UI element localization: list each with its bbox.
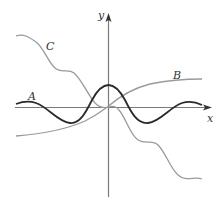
curve-a-label: A [27, 90, 36, 103]
function-graph-figure: y x A B C [0, 0, 219, 211]
x-axis-label: x [207, 112, 214, 125]
axes [15, 13, 212, 197]
curve-b-label: B [172, 69, 181, 82]
y-axis-label: y [97, 9, 105, 22]
curve-c-label: C [46, 40, 55, 53]
